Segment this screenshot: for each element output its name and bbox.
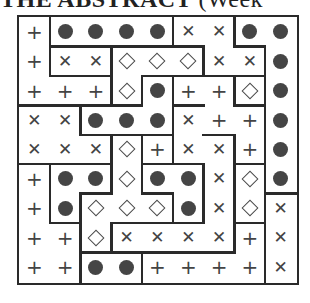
region-border: [110, 134, 113, 166]
region-border: [49, 45, 52, 77]
region-border: [233, 222, 236, 254]
grid-cell: +: [234, 105, 265, 134]
grid-cell: ✕: [111, 223, 142, 252]
grid-cell: [111, 164, 142, 193]
cross-symbol: ✕: [212, 200, 226, 217]
cross-symbol: ✕: [89, 53, 103, 70]
grid-cell: [142, 46, 173, 75]
diamond-symbol: [87, 200, 104, 217]
region-border: [79, 222, 82, 254]
region-border: [264, 104, 267, 136]
diamond-symbol: [118, 200, 135, 217]
region-border: [49, 163, 82, 166]
grid-cell: ✕: [234, 46, 265, 75]
region-border: [172, 75, 205, 78]
grid-cell: ✕: [173, 135, 204, 164]
grid-cell: ✕: [50, 46, 81, 75]
grid-cell: ✕: [19, 135, 50, 164]
dot-symbol: [242, 24, 257, 39]
region-border: [110, 251, 143, 254]
region-border: [49, 104, 82, 107]
dot-symbol: [58, 171, 73, 186]
cross-symbol: ✕: [27, 112, 41, 129]
region-border: [49, 16, 52, 48]
grid-cell: +: [204, 105, 235, 134]
region-border: [202, 192, 205, 224]
grid-cell: ✕: [81, 135, 112, 164]
region-border: [172, 75, 175, 107]
grid-cell: ✕: [204, 135, 235, 164]
region-border: [172, 45, 205, 48]
plus-symbol: +: [211, 257, 228, 277]
region-border: [233, 75, 266, 78]
dot-symbol: [88, 171, 103, 186]
region-border: [49, 45, 82, 48]
grid-cell: [81, 194, 112, 223]
region-border: [141, 134, 144, 166]
region-border: [79, 104, 112, 107]
cross-symbol: ✕: [212, 23, 226, 40]
grid-cell: +: [173, 76, 204, 105]
grid-cell: [265, 105, 296, 134]
grid-cell: ✕: [19, 105, 50, 134]
region-border: [141, 163, 174, 166]
grid-cell: [173, 194, 204, 223]
plus-symbol: +: [26, 169, 43, 189]
grid-cell: +: [50, 76, 81, 105]
region-border: [264, 45, 267, 77]
grid-cell: [111, 76, 142, 105]
plus-symbol: +: [211, 110, 228, 130]
title-main: THE ABSTRACT: [0, 0, 192, 12]
grid-cell: +: [19, 223, 50, 252]
grid-cell: [81, 105, 112, 134]
dot-symbol: [88, 113, 103, 128]
region-border: [264, 251, 267, 283]
region-border: [202, 75, 235, 78]
grid-cell: [111, 194, 142, 223]
region-border: [18, 104, 51, 107]
cross-symbol: ✕: [89, 141, 103, 158]
grid-cell: [142, 105, 173, 134]
diamond-symbol: [241, 200, 258, 217]
region-border: [141, 251, 174, 254]
diamond-symbol: [118, 141, 135, 158]
grid-cell: [142, 194, 173, 223]
dot-symbol: [150, 113, 165, 128]
cross-symbol: ✕: [150, 229, 164, 246]
grid-cell: ✕: [50, 105, 81, 134]
dot-symbol: [273, 83, 288, 98]
region-border: [49, 192, 52, 224]
plus-symbol: +: [57, 81, 74, 101]
dot-symbol: [88, 24, 103, 39]
region-border: [141, 45, 174, 48]
region-border: [110, 163, 113, 195]
diamond-symbol: [149, 53, 166, 70]
region-border: [141, 75, 174, 78]
grid-cell: ✕: [173, 17, 204, 46]
grid-cell: +: [234, 223, 265, 252]
plus-symbol: +: [26, 228, 43, 248]
diamond-symbol: [118, 53, 135, 70]
title-suffix: (Week: [192, 0, 263, 12]
grid-cell: [81, 253, 112, 282]
cross-symbol: ✕: [273, 200, 287, 217]
region-border: [202, 45, 205, 77]
region-border: [79, 134, 112, 137]
grid-cell: [173, 164, 204, 193]
region-border: [18, 163, 51, 166]
region-border: [233, 104, 266, 107]
grid-cell: [265, 164, 296, 193]
grid-cell: [50, 194, 81, 223]
diamond-symbol: [180, 53, 197, 70]
cross-symbol: ✕: [120, 229, 134, 246]
region-border: [233, 16, 236, 48]
dot-symbol: [273, 54, 288, 69]
grid-cell: +: [234, 135, 265, 164]
grid-cell: [111, 46, 142, 75]
grid-cell: ✕: [265, 194, 296, 223]
region-border: [172, 222, 205, 225]
region-border: [264, 163, 267, 195]
grid-cell: ✕: [142, 223, 173, 252]
grid-cell: [234, 164, 265, 193]
diamond-symbol: [149, 200, 166, 217]
